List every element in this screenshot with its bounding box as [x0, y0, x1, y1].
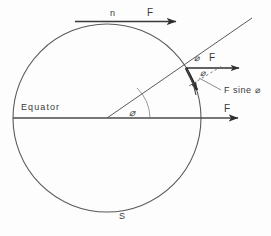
force-tangent-label: F	[209, 53, 216, 63]
angle-upper-label: ⌀	[194, 54, 200, 63]
south-pole-label: S	[119, 212, 126, 221]
force-component-label: F sine ⌀	[224, 86, 260, 95]
north-pole-label: n	[110, 9, 116, 18]
angle-center-label: ⌀	[129, 108, 136, 118]
angle-arc-tangent	[186, 68, 196, 95]
diagram-canvas	[0, 0, 271, 236]
force-diagram-figure: n F Equator S F ⌀ ⌀ F ⌀ F sine ⌀	[0, 0, 271, 236]
angle-lower-label: ⌀	[200, 69, 206, 78]
force-equator-label: F	[224, 104, 231, 114]
fsine-leader-line	[199, 78, 221, 90]
force-top-label: F	[147, 8, 154, 18]
equator-label: Equator	[21, 103, 60, 112]
